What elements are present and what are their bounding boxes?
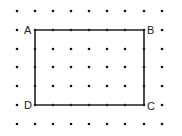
- grid-dot: [106, 85, 109, 88]
- grid-dot: [124, 48, 127, 51]
- grid-dot: [124, 85, 127, 88]
- grid-dot: [143, 10, 146, 13]
- grid-dot: [16, 48, 19, 51]
- grid-dot: [124, 123, 127, 126]
- grid-dot: [88, 123, 91, 126]
- grid-dot: [16, 10, 19, 13]
- grid-dot: [161, 66, 164, 69]
- grid-dot: [88, 10, 91, 13]
- grid-dot: [161, 104, 164, 107]
- grid-dot: [161, 29, 164, 32]
- grid-dot: [161, 48, 164, 51]
- grid-dot: [88, 85, 91, 88]
- grid-dot: [52, 66, 55, 69]
- grid-dot: [34, 10, 37, 13]
- grid-dot: [70, 123, 73, 126]
- grid-dot: [106, 123, 109, 126]
- grid-dot: [16, 85, 19, 88]
- grid-dot: [52, 48, 55, 51]
- grid-dot: [124, 10, 127, 13]
- grid-dot: [70, 66, 73, 69]
- grid-dot: [106, 66, 109, 69]
- corner-label-c: C: [147, 100, 155, 112]
- diagram-canvas: ABCD: [0, 0, 182, 136]
- corner-label-b: B: [147, 24, 154, 36]
- grid-dot: [161, 10, 164, 13]
- dot-grid-diagram: ABCD: [0, 0, 182, 136]
- grid-dot: [16, 66, 19, 69]
- grid-dot: [88, 48, 91, 51]
- grid-dot: [106, 48, 109, 51]
- grid-dot: [52, 10, 55, 13]
- grid-dot: [70, 10, 73, 13]
- grid-dot: [88, 66, 91, 69]
- grid-dot: [52, 123, 55, 126]
- grid-dot: [34, 123, 37, 126]
- grid-dot: [143, 123, 146, 126]
- corner-label-d: D: [24, 99, 32, 111]
- corner-label-a: A: [24, 24, 32, 36]
- grid-dots: [16, 10, 164, 126]
- grid-dot: [16, 104, 19, 107]
- grid-dot: [16, 29, 19, 32]
- grid-dot: [124, 66, 127, 69]
- grid-dot: [106, 10, 109, 13]
- grid-dot: [161, 85, 164, 88]
- grid-dot: [70, 85, 73, 88]
- grid-dot: [16, 123, 19, 126]
- grid-dot: [52, 85, 55, 88]
- grid-dot: [70, 48, 73, 51]
- grid-dot: [161, 123, 164, 126]
